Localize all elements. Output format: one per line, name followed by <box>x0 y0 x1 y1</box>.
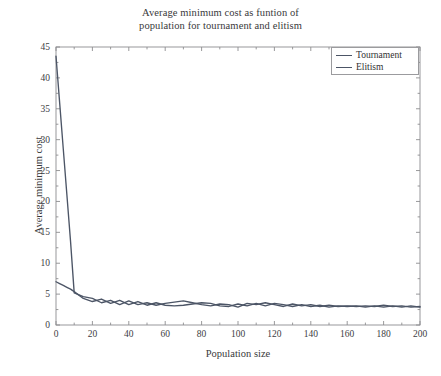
x-tick-label: 140 <box>304 329 318 339</box>
legend-label: Tournament <box>356 51 402 61</box>
axes-frame <box>56 47 420 325</box>
x-tick-label: 160 <box>340 329 354 339</box>
data-series-group <box>56 56 420 307</box>
y-tick-label: 0 <box>22 320 50 330</box>
x-tick-label: 20 <box>88 329 98 339</box>
x-tick-label: 120 <box>267 329 281 339</box>
series-line-tournament <box>56 56 420 307</box>
x-tick-label: 60 <box>160 329 170 339</box>
x-tick-label: 200 <box>413 329 427 339</box>
chart-figure: Average minimum cost as funtion of popul… <box>0 0 441 376</box>
legend-swatch-icon <box>336 55 352 56</box>
y-tick-label: 45 <box>22 42 50 52</box>
chart-legend: Tournament Elitism <box>331 47 419 75</box>
x-tick-label: 180 <box>376 329 390 339</box>
y-tick-label: 5 <box>22 289 50 299</box>
legend-item-elitism: Elitism <box>336 61 383 74</box>
x-tick-label: 40 <box>124 329 134 339</box>
x-tick-label: 80 <box>197 329 207 339</box>
x-axis-title: Population size <box>56 348 420 359</box>
y-axis-title: Average minimum cost <box>33 86 44 286</box>
legend-label: Elitism <box>356 63 383 73</box>
x-tick-label: 100 <box>231 329 245 339</box>
series-line-elitism <box>56 282 420 307</box>
legend-swatch-icon <box>336 67 352 68</box>
axis-ticks <box>56 47 420 325</box>
y-tick-label: 40 <box>22 73 50 83</box>
x-tick-label: 0 <box>54 329 59 339</box>
